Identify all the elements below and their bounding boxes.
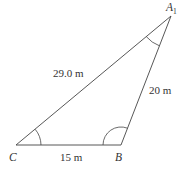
vertex-label-b: B	[115, 152, 122, 164]
triangle-diagram: A1 C B 29.0 m 20 m 15 m	[0, 0, 183, 173]
triangle-outline	[16, 16, 171, 145]
side-label-cb: 15 m	[60, 152, 82, 163]
vertex-label-a1: A1	[166, 2, 177, 14]
angle-arc-c	[35, 129, 41, 145]
angle-arc-a1	[146, 37, 159, 46]
vertex-label-c: C	[9, 152, 17, 164]
side-label-ca: 29.0 m	[53, 68, 84, 79]
angle-arc-b	[103, 127, 128, 145]
side-label-ab: 20 m	[149, 85, 171, 96]
